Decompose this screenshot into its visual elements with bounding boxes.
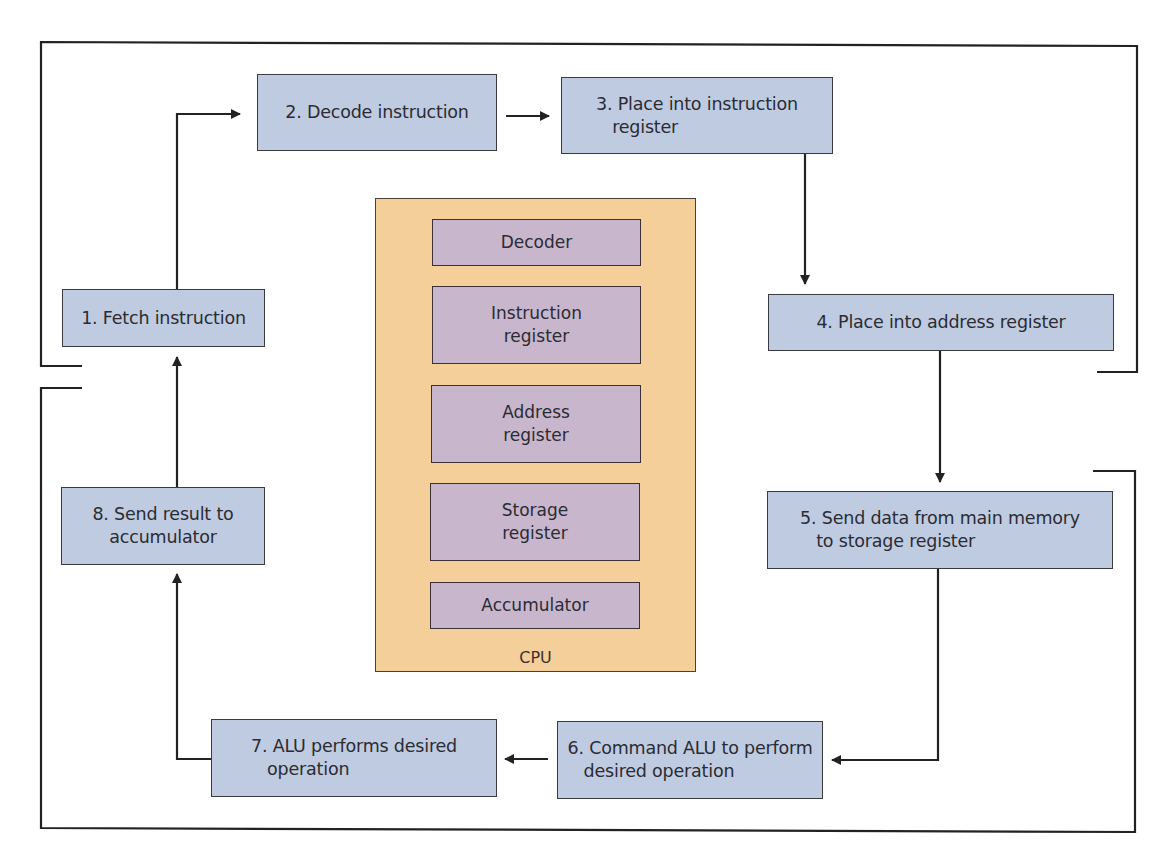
- step-label: 3. Place into instruction register: [596, 93, 798, 139]
- register-decoder: Decoder: [432, 219, 641, 266]
- step-1-fetch-instruction: 1. Fetch instruction: [62, 289, 265, 347]
- register-instruction: Instruction register: [432, 286, 641, 364]
- step-label: 2. Decode instruction: [285, 101, 468, 124]
- step-3-place-into-instruction-register: 3. Place into instruction register: [561, 77, 833, 154]
- step-7-alu-performs-operation: 7. ALU performs desired operation: [211, 719, 497, 797]
- step-label: 6. Command ALU to perform desired operat…: [568, 737, 813, 783]
- register-address: Address register: [431, 385, 641, 463]
- arrow-5-to-6: [832, 569, 938, 760]
- step-label: 4. Place into address register: [816, 311, 1065, 334]
- step-label: 5. Send data from main memory to storage…: [800, 507, 1080, 553]
- register-storage: Storage register: [430, 483, 640, 561]
- step-4-place-into-address-register: 4. Place into address register: [768, 294, 1114, 351]
- step-label: 1. Fetch instruction: [81, 307, 246, 330]
- arrow-7-to-8: [177, 574, 211, 759]
- step-2-decode-instruction: 2. Decode instruction: [257, 74, 497, 151]
- register-label: Instruction register: [491, 302, 582, 348]
- register-label: Accumulator: [481, 594, 588, 617]
- cpu-block: Decoder Instruction register Address reg…: [375, 198, 696, 672]
- register-label: Storage register: [502, 499, 569, 545]
- step-label: 8. Send result to accumulator: [92, 503, 233, 549]
- step-5-send-data-to-storage-register: 5. Send data from main memory to storage…: [767, 491, 1113, 569]
- register-label: Decoder: [501, 231, 573, 254]
- cpu-label: CPU: [376, 648, 695, 667]
- arrow-1-to-2: [177, 114, 240, 289]
- machine-cycle-diagram: 1. Fetch instruction 2. Decode instructi…: [0, 0, 1171, 862]
- step-6-command-alu: 6. Command ALU to perform desired operat…: [557, 721, 823, 799]
- register-accumulator: Accumulator: [430, 582, 640, 629]
- register-label: Address register: [502, 401, 570, 447]
- step-label: 7. ALU performs desired operation: [251, 735, 457, 781]
- step-8-send-result-to-accumulator: 8. Send result to accumulator: [61, 487, 265, 565]
